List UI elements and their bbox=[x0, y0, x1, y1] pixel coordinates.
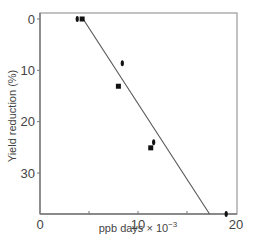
y-axis-ticks: 0102030 bbox=[21, 12, 40, 181]
data-point-ellipse bbox=[76, 16, 79, 22]
y-tick-label: 0 bbox=[28, 12, 35, 27]
y-tick-label: 20 bbox=[21, 114, 35, 129]
data-point-square bbox=[116, 84, 121, 89]
fit-line bbox=[83, 19, 209, 214]
data-point-ellipse bbox=[225, 211, 228, 217]
plot-border bbox=[40, 13, 237, 214]
y-tick-label: 10 bbox=[21, 63, 35, 78]
x-tick-label: 20 bbox=[229, 217, 243, 232]
data-point-ellipse bbox=[152, 139, 155, 145]
x-tick-label: 0 bbox=[36, 217, 43, 232]
y-tick-label: 30 bbox=[21, 166, 35, 181]
data-point-square bbox=[80, 17, 85, 22]
data-point-square bbox=[148, 145, 153, 150]
data-points bbox=[76, 16, 228, 217]
data-point-ellipse bbox=[121, 60, 124, 66]
x-axis-label: ppb days × 10−3 bbox=[99, 220, 178, 234]
scatter-chart: 0102030 01020 Yield reduction (%) ppb da… bbox=[0, 0, 256, 252]
regression-line bbox=[83, 19, 209, 214]
plot-frame bbox=[40, 13, 237, 214]
y-axis-label: Yield reduction (%) bbox=[6, 70, 18, 163]
